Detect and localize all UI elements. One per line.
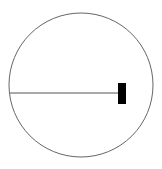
- diagram-svg: [0, 0, 162, 169]
- end-block: [118, 83, 126, 104]
- diagram-canvas: [0, 0, 162, 169]
- outer-circle: [9, 13, 153, 157]
